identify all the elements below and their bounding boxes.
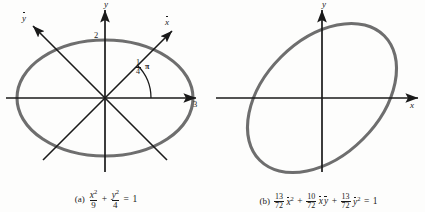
- axis-x-bar: [43, 31, 172, 160]
- eq-b-coef3-den: 72: [341, 201, 351, 210]
- panel-b-plot: y x: [212, 0, 425, 178]
- panel-b: y x (b) 13 72 x2 + 10 72: [212, 0, 425, 212]
- figure-root: y x x y 2 3 1 4 π (a): [0, 0, 425, 212]
- eq-b-equals: =: [363, 197, 370, 207]
- eq-b-op1: +: [296, 197, 303, 207]
- axis-label-y-bar-b: y: [322, 0, 326, 9]
- x-bar-glyph-b: x: [410, 100, 414, 110]
- eq-b-var1: x2: [286, 196, 293, 208]
- caption-a-tag: (a): [75, 195, 85, 204]
- equation-b: 13 72 x2 + 10 72 xy + 13 72 y2: [274, 193, 378, 210]
- eq-a-term1: x2 9: [89, 189, 98, 211]
- panel-a: y x x y 2 3 1 4 π (a): [0, 0, 212, 212]
- axis-label-x: x: [187, 92, 191, 102]
- y-bar-glyph: y: [22, 13, 26, 23]
- eq-a-operator: +: [101, 195, 108, 205]
- caption-b: (b) 13 72 x2 + 10 72 xy + 13: [212, 193, 425, 210]
- eq-a-rhs: 1: [132, 195, 137, 205]
- angle-fraction: 1 4: [135, 59, 141, 76]
- eq-b-coef2: 10 72: [306, 193, 316, 210]
- panel-b-svg: [212, 0, 425, 178]
- eq-b-op2: +: [331, 197, 338, 207]
- angle-denominator: 4: [135, 67, 141, 76]
- angle-numerator: 1: [135, 59, 141, 67]
- eq-a-term1-den: 9: [90, 200, 97, 210]
- equation-a: x2 9 + y2 4 = 1: [89, 189, 137, 211]
- eq-b-coef2-den: 72: [306, 201, 316, 210]
- eq-a-term1-num: x2: [89, 189, 98, 201]
- eq-a-term2-num: y2: [111, 189, 120, 201]
- angle-label: 1 4 π: [135, 59, 149, 76]
- caption-b-tag: (b): [259, 197, 270, 206]
- panel-a-svg: [0, 0, 212, 178]
- axis-label-y: y: [104, 0, 108, 9]
- axis-label-y-bar: y: [22, 13, 26, 23]
- eq-b-coef1: 13 72: [274, 193, 284, 210]
- tick-label-x-3: 3: [193, 99, 197, 109]
- eq-b-coef1-den: 72: [274, 201, 284, 210]
- eq-a-term2-den: 4: [112, 200, 119, 210]
- eq-b-coef3-num: 13: [341, 193, 351, 201]
- eq-a-equals: =: [123, 195, 130, 205]
- eq-b-var2: xy: [319, 197, 328, 207]
- eq-b-coef3: 13 72: [341, 193, 351, 210]
- axis-label-x-bar: x: [165, 17, 169, 27]
- tick-label-y-2: 2: [94, 30, 98, 40]
- x-bar-glyph: x: [165, 17, 169, 27]
- eq-b-rhs: 1: [373, 197, 378, 207]
- panel-a-plot: y x x y 2 3 1 4 π: [0, 0, 212, 178]
- eq-b-var3: y2: [353, 196, 360, 208]
- eq-b-coef2-num: 10: [306, 193, 316, 201]
- eq-a-term2: y2 4: [111, 189, 120, 211]
- pi-symbol: π: [145, 62, 149, 71]
- y-bar-glyph-b: y: [322, 0, 326, 9]
- axis-label-x-bar-b: x: [410, 100, 414, 110]
- caption-a: (a) x2 9 + y2 4 = 1: [0, 189, 212, 211]
- eq-b-coef1-num: 13: [274, 193, 284, 201]
